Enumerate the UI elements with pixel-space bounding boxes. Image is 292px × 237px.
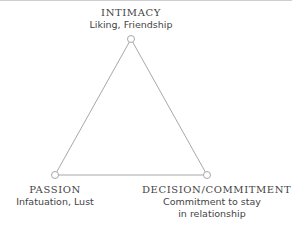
passion-subtitle: Infatuation, Lust [5,196,105,208]
edge-intimacy-passion [55,39,131,175]
label-passion: PASSION Infatuation, Lust [5,183,105,208]
intimacy-subtitle: Liking, Friendship [81,19,181,31]
commitment-subtitle-line1: Commitment to stay [142,196,282,208]
node-passion-icon [52,172,59,179]
label-intimacy: INTIMACY Liking, Friendship [81,6,181,31]
label-commitment: DECISION/COMMITMENT Commitment to stay i… [142,183,282,220]
passion-title: PASSION [5,183,105,196]
node-commitment-icon [204,172,211,179]
commitment-subtitle-line2: in relationship [142,208,282,220]
intimacy-title: INTIMACY [81,6,181,19]
commitment-title: DECISION/COMMITMENT [142,183,282,196]
edge-commitment-intimacy [131,39,207,175]
node-intimacy-icon [128,36,135,43]
